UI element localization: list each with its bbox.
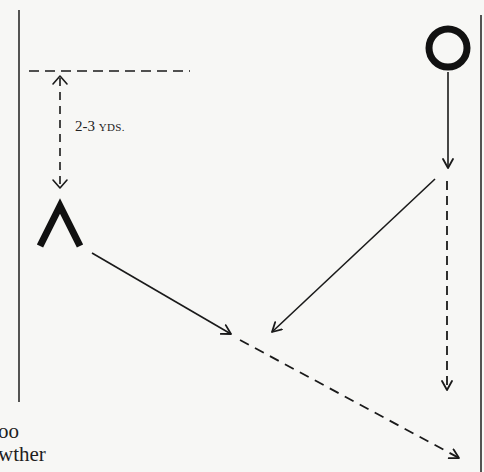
cutoff-text-line-2: wther: [0, 444, 46, 465]
play-diagram: [0, 0, 484, 472]
defender-chevron-icon: [40, 206, 80, 246]
offensive-player-circle-icon: [429, 29, 467, 67]
route-solid-diagonal-right: [92, 253, 231, 334]
route-dashed-diagonal: [240, 340, 459, 458]
distance-double-arrow: [53, 76, 67, 188]
cutoff-text-line-1: oo: [0, 421, 19, 442]
route-solid-diagonal-left: [272, 179, 435, 332]
distance-label: 2-3 YDS.: [75, 118, 125, 135]
distance-number: 2-3: [75, 118, 95, 134]
diagram-page: 2-3 YDS. oo wther: [0, 0, 484, 472]
distance-unit: YDS.: [99, 121, 125, 133]
